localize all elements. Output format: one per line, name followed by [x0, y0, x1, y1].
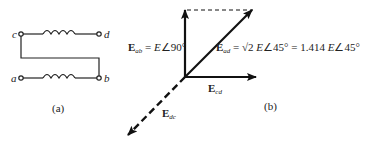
label-a: a: [11, 73, 17, 84]
top-coil-icon: [43, 31, 75, 35]
vector-edc-arrow: [128, 77, 185, 135]
bottom-coil-icon: [43, 75, 75, 79]
diagram-canvas: [0, 0, 369, 151]
label-eab: Eab = E∠90°: [128, 42, 186, 55]
caption-b: (b): [264, 101, 277, 112]
terminal-d: [97, 32, 101, 36]
coil-circuit: [19, 31, 101, 81]
label-edc: Edc: [162, 108, 176, 121]
caption-a: (a): [52, 103, 64, 114]
terminal-c: [19, 32, 23, 36]
label-c: c: [12, 29, 17, 40]
terminal-b: [97, 76, 101, 80]
label-d: d: [104, 29, 110, 40]
label-b: b: [104, 73, 110, 84]
label-ecd: Ecd: [208, 83, 222, 96]
label-ead: Ead = √2 E∠45° = 1.414 E∠45°: [216, 42, 360, 55]
terminal-a: [19, 76, 23, 80]
phasor-diagram: [128, 10, 256, 135]
